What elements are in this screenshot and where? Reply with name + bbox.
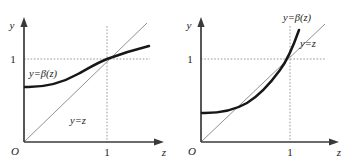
- origin-label: O: [11, 145, 19, 157]
- x-tick-label: 1: [287, 146, 293, 158]
- y-axis-arrowhead: [197, 17, 204, 27]
- y-tick-label: 1: [10, 53, 16, 65]
- identity-line-label: y=z: [299, 38, 316, 49]
- y-axis-arrowhead: [20, 17, 27, 27]
- x-axis-label: z: [336, 146, 342, 158]
- two-panel-beta-figure: 1 1 y z O y=β(z) y=z: [0, 0, 347, 168]
- identity-line-label: y=z: [69, 115, 86, 126]
- origin-label: O: [188, 145, 196, 157]
- beta-curve-label: y=β(z): [28, 68, 58, 80]
- y-axis-label: y: [9, 19, 15, 31]
- convex-beta-plot: 1 1 y z O y=β(z) y=z: [173, 0, 347, 168]
- x-axis-label: z: [161, 146, 167, 158]
- concave-beta-plot: 1 1 y z O y=β(z) y=z: [0, 0, 174, 168]
- x-tick-label: 1: [104, 146, 110, 158]
- identity-line: [25, 23, 147, 141]
- y-tick-label: 1: [187, 53, 193, 65]
- x-axis-arrowhead: [154, 138, 164, 145]
- beta-curve-label: y=β(z): [282, 12, 312, 24]
- convex-beta-panel: 1 1 y z O y=β(z) y=z: [173, 0, 347, 168]
- concave-beta-panel: 1 1 y z O y=β(z) y=z: [0, 0, 174, 168]
- y-axis-label: y: [186, 19, 192, 31]
- x-axis-arrowhead: [329, 138, 339, 145]
- beta-curve: [202, 30, 299, 113]
